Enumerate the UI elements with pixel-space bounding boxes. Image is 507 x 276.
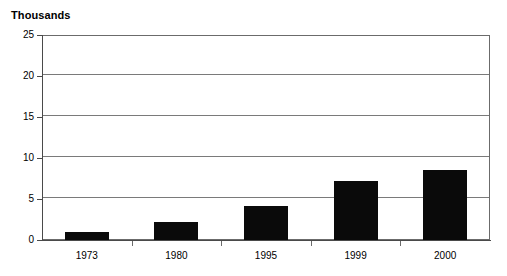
- bar[interactable]: [154, 222, 198, 240]
- y-axis-tick-label-wrap: 0: [0, 235, 34, 245]
- y-axis-tick-label-wrap: 20: [0, 71, 34, 81]
- x-axis-tick-label: 1999: [311, 250, 401, 262]
- x-axis-tick: [221, 241, 222, 246]
- x-axis-tick-label: 2000: [400, 250, 490, 262]
- y-axis-tick-label: 10: [6, 153, 34, 163]
- x-axis-labels: 19731980199519992000: [42, 250, 490, 264]
- x-axis-tick: [132, 241, 133, 246]
- bar-slot: [311, 35, 401, 240]
- x-axis-tick: [311, 241, 312, 246]
- x-axis-tick-label: 1973: [42, 250, 132, 262]
- x-axis-line: [42, 240, 491, 241]
- bar[interactable]: [244, 206, 288, 240]
- y-axis-tick-label-wrap: 5: [0, 194, 34, 204]
- bar-slot: [221, 35, 311, 240]
- x-axis-tick: [400, 241, 401, 246]
- y-axis-tick-label-wrap: 10: [0, 153, 34, 163]
- chart-axis-title: Thousands: [11, 9, 71, 21]
- bar-slot: [400, 35, 490, 240]
- y-axis-tick-label: 5: [6, 194, 34, 204]
- y-axis-tick-label-wrap: 15: [0, 112, 34, 122]
- bar-chart: Thousands 0510152025 1973198019951999200…: [0, 0, 507, 276]
- y-axis-tick-label: 0: [6, 235, 34, 245]
- bar-slot: [42, 35, 132, 240]
- y-axis-tick-label: 25: [6, 30, 34, 40]
- bar[interactable]: [423, 170, 467, 240]
- y-axis-tick-label-wrap: 25: [0, 30, 34, 40]
- x-axis-tick-label: 1995: [221, 250, 311, 262]
- bar[interactable]: [334, 181, 378, 240]
- y-axis-tick-label: 20: [6, 71, 34, 81]
- bar[interactable]: [65, 232, 109, 240]
- y-axis-tick-label: 15: [6, 112, 34, 122]
- bars-layer: [42, 35, 490, 240]
- x-axis-tick-label: 1980: [132, 250, 222, 262]
- bar-slot: [132, 35, 222, 240]
